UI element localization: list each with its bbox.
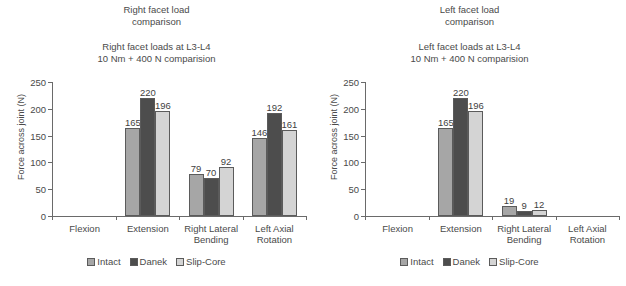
bar-value-label: 79 — [191, 164, 202, 174]
bar-value-label: 9 — [521, 201, 526, 211]
y-tick-label: 0 — [20, 212, 46, 221]
bar-slip-core: 92 — [219, 167, 234, 216]
legend-label: Slip-Core — [499, 256, 539, 267]
x-tick-label: Flexion — [366, 223, 429, 245]
bar-intact: 165 — [438, 128, 453, 216]
x-tick-label: Flexion — [53, 223, 116, 245]
bars — [556, 82, 619, 216]
bar-value-label: 19 — [504, 196, 515, 206]
x-tick-mark — [52, 216, 53, 220]
x-tick-mark — [243, 216, 244, 220]
y-tick-mark — [48, 189, 52, 190]
legend: IntactDanekSlip-Core — [313, 256, 626, 267]
bar-slip-core: 196 — [468, 111, 483, 216]
bar-intact: 19 — [502, 206, 517, 216]
legend-label: Intact — [410, 256, 433, 267]
bar-value-label: 92 — [221, 157, 232, 167]
y-tick-mark — [361, 189, 365, 190]
bar-group: 165220196 — [429, 82, 492, 216]
legend: IntactDanekSlip-Core — [0, 256, 313, 267]
plot-area: Force across joint (N) 050100150200250 1… — [313, 76, 626, 226]
y-tick-mark — [48, 136, 52, 137]
bar-value-label: 146 — [251, 128, 267, 138]
bar-intact: 79 — [189, 174, 204, 216]
y-tick-label: 200 — [333, 105, 359, 114]
bar-group: 165220196 — [116, 82, 179, 216]
plot-area: Force across joint (N) 050100150200250 1… — [0, 76, 313, 226]
x-tick-mark — [429, 216, 430, 220]
bars — [366, 82, 429, 216]
y-tick-mark — [48, 109, 52, 110]
legend-label: Slip-Core — [186, 256, 226, 267]
panel-title: Left facet load comparison — [313, 0, 626, 28]
legend-swatch-icon — [87, 258, 95, 266]
y-tick-mark — [361, 162, 365, 163]
y-tick-mark — [48, 162, 52, 163]
panel-subtitle: Right facet loads at L3-L4 10 Nm + 400 N… — [0, 28, 313, 65]
y-axis-ticks: 050100150200250 — [329, 82, 359, 216]
bar-value-label: 70 — [206, 168, 217, 178]
bar-group — [556, 82, 619, 216]
bar-value-label: 161 — [281, 120, 297, 130]
bar-groups: 165220196797092146192161 — [53, 82, 306, 216]
legend-item: Danek — [443, 256, 480, 267]
bars: 165220196 — [429, 82, 492, 216]
y-tick-label: 250 — [333, 78, 359, 87]
x-axis-labels: FlexionExtensionRight Lateral BendingLef… — [53, 223, 306, 245]
legend-item: Slip-Core — [176, 256, 226, 267]
y-tick-label: 150 — [333, 132, 359, 141]
bar-value-label: 220 — [453, 88, 469, 98]
legend-item: Slip-Core — [489, 256, 539, 267]
bar-value-label: 12 — [534, 200, 545, 210]
bar-intact: 165 — [125, 128, 140, 216]
bar-group: 797092 — [180, 82, 243, 216]
x-axis-labels: FlexionExtensionRight Lateral BendingLef… — [366, 223, 619, 245]
x-tick-label: Right Lateral Bending — [493, 223, 556, 245]
bars: 165220196 — [116, 82, 179, 216]
legend-swatch-icon — [130, 258, 138, 266]
bar-value-label: 196 — [155, 101, 171, 111]
x-tick-mark — [306, 216, 307, 220]
bar-group: 19912 — [493, 82, 556, 216]
y-tick-label: 100 — [20, 158, 46, 167]
y-tick-label: 150 — [20, 132, 46, 141]
y-tick-label: 50 — [333, 185, 359, 194]
x-tick-mark — [492, 216, 493, 220]
bar-danek: 70 — [204, 178, 219, 216]
y-tick-label: 100 — [333, 158, 359, 167]
panel-right-facet: Right facet load comparison Right facet … — [0, 0, 313, 286]
legend-swatch-icon — [176, 258, 184, 266]
x-tick-label: Right Lateral Bending — [180, 223, 243, 245]
bar-group — [366, 82, 429, 216]
y-tick-mark — [48, 82, 52, 83]
legend-swatch-icon — [400, 258, 408, 266]
bar-danek: 192 — [267, 113, 282, 216]
x-tick-mark — [556, 216, 557, 220]
y-tick-label: 0 — [333, 212, 359, 221]
x-tick-mark — [116, 216, 117, 220]
bar-value-label: 165 — [438, 118, 454, 128]
bar-value-label: 196 — [468, 101, 484, 111]
x-tick-mark — [619, 216, 620, 220]
bar-slip-core: 161 — [282, 130, 297, 216]
legend-label: Danek — [453, 256, 480, 267]
legend-item: Intact — [87, 256, 120, 267]
x-tick-mark — [365, 216, 366, 220]
x-tick-label: Extension — [429, 223, 492, 245]
y-tick-mark — [361, 136, 365, 137]
legend-item: Intact — [400, 256, 433, 267]
x-tick-label: Left Axial Rotation — [556, 223, 619, 245]
bar-slip-core: 196 — [155, 111, 170, 216]
bars: 797092 — [180, 82, 243, 216]
panel-left-facet: Left facet load comparison Left facet lo… — [313, 0, 626, 286]
figure-root: Right facet load comparison Right facet … — [0, 0, 626, 286]
legend-label: Intact — [97, 256, 120, 267]
bar-groups: 16522019619912 — [366, 82, 619, 216]
y-axis-ticks: 050100150200250 — [16, 82, 46, 216]
bar-group: 146192161 — [243, 82, 306, 216]
y-tick-mark — [361, 109, 365, 110]
bar-danek: 220 — [453, 98, 468, 216]
y-tick-label: 200 — [20, 105, 46, 114]
x-tick-label: Left Axial Rotation — [243, 223, 306, 245]
bar-group — [53, 82, 116, 216]
